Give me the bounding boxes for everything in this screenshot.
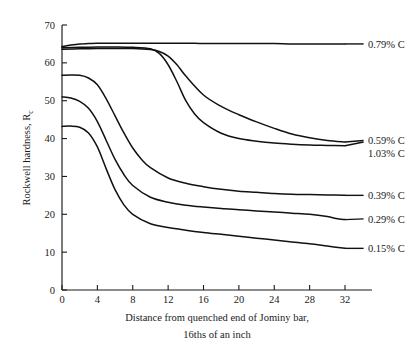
axes-group [62, 25, 372, 290]
y-axis-title-group: Rockwell hardness, Rc [21, 110, 35, 206]
curve-0-79-c [62, 43, 345, 46]
x-tick-label: 8 [130, 294, 135, 305]
series-label-0-39-c: 0.39% C [368, 190, 405, 201]
x-tick-label: 0 [59, 294, 64, 305]
series-label-0-29-c: 0.29% C [368, 214, 405, 225]
series-labels-group: 0.79% C0.59% C1.03% C0.39% C0.29% C0.15%… [368, 39, 405, 254]
y-tick-label: 60 [45, 57, 56, 68]
leader-0-59-c [345, 140, 364, 142]
y-tick-label: 50 [45, 95, 56, 106]
y-tick-label: 20 [45, 209, 56, 220]
x-tick-label: 24 [269, 294, 280, 305]
y-tick-label: 30 [45, 171, 56, 182]
x-axis-title-line2: 16ths of an inch [183, 329, 251, 340]
y-tick-label: 10 [45, 247, 56, 258]
series-label-1-03-c: 1.03% C [368, 148, 405, 159]
data-curves-group [62, 43, 345, 248]
series-label-0-79-c: 0.79% C [368, 39, 405, 50]
x-axis-title-line1: Distance from quenched end of Jominy bar… [125, 312, 309, 323]
x-tick-label: 20 [234, 294, 245, 305]
y-tick-label: 0 [50, 285, 55, 296]
chart-canvas: 010203040506070 048121620242832 0.79% C0… [0, 0, 412, 350]
x-tick-label: 16 [198, 294, 209, 305]
jominy-hardenability-chart: 010203040506070 048121620242832 0.79% C0… [0, 0, 412, 350]
x-tick-label: 12 [163, 294, 174, 305]
leader-1-03-c [345, 142, 364, 146]
x-tick-label: 28 [304, 294, 315, 305]
x-axis-tick-labels: 048121620242832 [59, 294, 350, 305]
leader-0-29-c [345, 219, 364, 220]
series-label-0-59-c: 0.59% C [368, 135, 405, 146]
y-axis-tick-labels: 010203040506070 [45, 20, 56, 296]
y-tick-label: 40 [45, 133, 56, 144]
x-tick-label: 4 [95, 294, 101, 305]
label-leader-lines [345, 44, 364, 248]
series-label-0-15-c: 0.15% C [368, 243, 405, 254]
y-axis-title: Rockwell hardness, Rc [21, 110, 35, 206]
y-tick-label: 70 [45, 20, 56, 31]
y-axis-ticks [62, 25, 67, 290]
x-tick-label: 32 [340, 294, 351, 305]
x-axis-ticks [62, 285, 345, 290]
curve-0-29-c [62, 97, 345, 220]
